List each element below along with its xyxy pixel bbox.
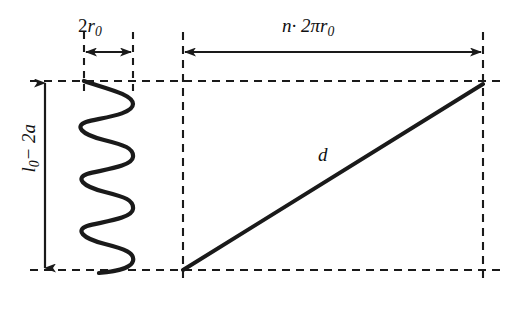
unwound-length-n: n	[282, 15, 292, 36]
spring-geometry-diagram: 2r0 n· 2πr0 d l0− 2a	[0, 0, 518, 312]
coil-diameter-subscript: 0	[95, 24, 102, 39]
coil-diameter-label: 2r0	[78, 16, 102, 39]
spring-helix	[80, 81, 133, 273]
coil-diameter-number: 2	[78, 15, 88, 36]
unwound-length-subscript: 0	[327, 24, 334, 39]
unwound-length-middle: · 2πr	[292, 15, 328, 36]
spring-height-variable: l	[18, 167, 39, 172]
spring-height-remainder: − 2a	[18, 124, 39, 161]
coil-diameter-variable: r	[88, 15, 95, 36]
spring-height-label: l0− 2a	[19, 124, 42, 173]
spring-height-subscript: 0	[27, 160, 42, 167]
diagonal-line-d	[183, 84, 483, 270]
diagram-canvas	[0, 0, 518, 312]
unwound-length-label: n· 2πr0	[282, 16, 334, 39]
diagonal-length-label: d	[318, 145, 328, 164]
